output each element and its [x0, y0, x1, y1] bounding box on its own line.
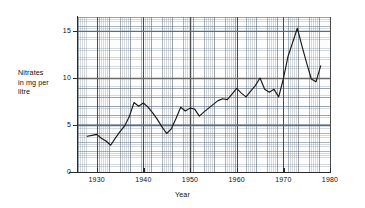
- x-tick-mark-1930: [97, 168, 98, 172]
- x-tick-mark-1970: [283, 168, 284, 172]
- x-tick-label-1940: 1940: [128, 176, 158, 183]
- y-tick-mark-5: [73, 125, 78, 126]
- x-tick-label-1970: 1970: [268, 176, 298, 183]
- x-tick-mark-1950: [190, 168, 191, 172]
- x-axis-line: [69, 172, 331, 174]
- nitrates-line-chart: Nitrates in mg per litre 051015193019401…: [0, 0, 365, 208]
- gridline-x-1980: [330, 17, 331, 172]
- plot-area: [78, 17, 330, 172]
- y-tick-label-0: 0: [55, 168, 71, 175]
- x-tick-label-1960: 1960: [222, 176, 252, 183]
- x-tick-label-1950: 1950: [175, 176, 205, 183]
- x-tick-label-1980: 1980: [315, 176, 345, 183]
- y-tick-label-10: 10: [55, 74, 71, 81]
- y-axis-title: Nitrates in mg per litre: [18, 68, 64, 97]
- x-tick-mark-1980: [330, 168, 331, 172]
- y-tick-mark-10: [73, 78, 78, 79]
- x-tick-label-1930: 1930: [82, 176, 112, 183]
- series-line-path: [87, 28, 320, 145]
- data-series-nitrates: [78, 17, 330, 172]
- y-tick-label-5: 5: [55, 121, 71, 128]
- x-tick-mark-1960: [237, 168, 238, 172]
- y-axis-line: [77, 16, 79, 173]
- x-axis-title: Year: [0, 190, 365, 200]
- y-tick-mark-0: [73, 172, 78, 173]
- y-tick-label-15: 15: [55, 27, 71, 34]
- x-tick-mark-1940: [143, 168, 144, 172]
- y-tick-mark-15: [73, 31, 78, 32]
